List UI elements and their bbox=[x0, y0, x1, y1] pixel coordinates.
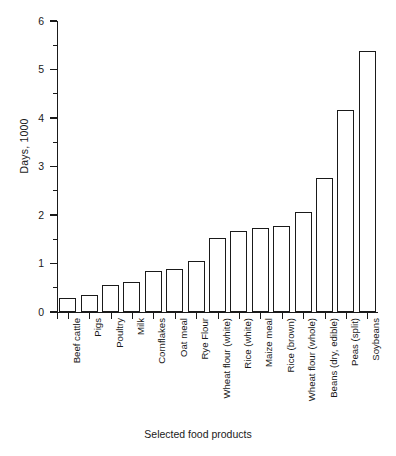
x-tick-label-wrapper: Poultry bbox=[115, 318, 125, 348]
y-tick-label: 3 bbox=[14, 161, 44, 172]
y-tick-label: 6 bbox=[14, 16, 44, 27]
x-tick-label-wrapper: Maize meal bbox=[264, 318, 274, 367]
bar bbox=[337, 110, 354, 312]
bar bbox=[230, 231, 247, 312]
y-axis-title: Days, 1000 bbox=[18, 86, 30, 206]
x-tick-label: Rice (white) bbox=[243, 318, 253, 369]
x-axis-title: Selected food products bbox=[0, 428, 396, 440]
y-tick-label: 2 bbox=[14, 210, 44, 221]
x-tick-label-wrapper: Beans (dry, edible) bbox=[329, 318, 339, 398]
x-tick-label: Milk bbox=[136, 318, 146, 335]
bar bbox=[209, 238, 226, 312]
y-tick-minor bbox=[53, 45, 57, 46]
x-tick bbox=[68, 313, 69, 319]
x-tick-label-wrapper: Oat meal bbox=[179, 318, 189, 357]
x-tick-label-wrapper: Wheat flour (white) bbox=[222, 318, 232, 399]
bar bbox=[188, 261, 205, 312]
x-tick bbox=[346, 313, 347, 319]
bar bbox=[273, 226, 290, 312]
x-tick-label-wrapper: Pigs bbox=[93, 318, 103, 337]
x-tick bbox=[111, 313, 112, 319]
bar bbox=[102, 285, 119, 312]
x-tick bbox=[282, 313, 283, 319]
x-tick-label: Beans (dry, edible) bbox=[329, 318, 339, 398]
y-tick-major bbox=[50, 69, 57, 70]
x-tick-label: Oat meal bbox=[179, 318, 189, 357]
x-tick bbox=[57, 313, 58, 319]
x-tick bbox=[218, 313, 219, 319]
bar bbox=[359, 51, 376, 312]
x-tick-label-wrapper: Peas (split) bbox=[350, 318, 360, 366]
x-tick bbox=[367, 313, 368, 319]
x-tick bbox=[175, 313, 176, 319]
bar bbox=[316, 178, 333, 312]
y-tick-label: 4 bbox=[14, 113, 44, 124]
y-tick-major bbox=[50, 214, 57, 215]
x-tick-label: Poultry bbox=[115, 318, 125, 348]
x-tick-label-wrapper: Rye Flour bbox=[200, 318, 210, 360]
y-tick-label: 5 bbox=[14, 64, 44, 75]
x-tick-label: Beef cattle bbox=[72, 318, 82, 363]
y-tick-minor bbox=[53, 93, 57, 94]
x-tick bbox=[239, 313, 240, 319]
x-tick bbox=[260, 313, 261, 319]
x-tick-label: Maize meal bbox=[264, 318, 274, 367]
x-tick-label: Soybeans bbox=[371, 318, 381, 361]
y-tick-minor bbox=[53, 190, 57, 191]
x-tick-label-wrapper: Rice (white) bbox=[243, 318, 253, 369]
x-tick bbox=[132, 313, 133, 319]
bar bbox=[59, 298, 76, 312]
bar bbox=[252, 228, 269, 312]
x-tick-label-wrapper: Beef cattle bbox=[72, 318, 82, 363]
y-tick-major bbox=[50, 20, 57, 21]
x-tick bbox=[325, 313, 326, 319]
x-tick-label: Wheat flour (white) bbox=[222, 318, 232, 399]
bar bbox=[295, 212, 312, 312]
y-tick-major bbox=[50, 311, 57, 312]
x-tick bbox=[303, 313, 304, 319]
bar bbox=[145, 271, 162, 312]
bar bbox=[166, 269, 183, 312]
x-tick-label: Rice (brown) bbox=[286, 318, 296, 372]
y-tick-major bbox=[50, 166, 57, 167]
bar bbox=[81, 295, 98, 312]
y-tick-label: 0 bbox=[14, 307, 44, 318]
y-tick-major bbox=[50, 117, 57, 118]
x-tick-label-wrapper: Rice (brown) bbox=[286, 318, 296, 372]
y-tick-minor bbox=[53, 239, 57, 240]
y-axis-line bbox=[57, 21, 58, 313]
x-tick bbox=[196, 313, 197, 319]
y-tick-minor bbox=[53, 287, 57, 288]
y-tick-label: 1 bbox=[14, 258, 44, 269]
x-tick-label: Cornflakes bbox=[157, 318, 167, 364]
x-tick-label-wrapper: Wheat flour (whole) bbox=[307, 318, 317, 401]
x-tick-label: Wheat flour (whole) bbox=[307, 318, 317, 401]
y-tick-minor bbox=[53, 142, 57, 143]
y-tick-major bbox=[50, 263, 57, 264]
x-tick-label-wrapper: Cornflakes bbox=[157, 318, 167, 364]
x-tick-label: Rye Flour bbox=[200, 318, 210, 360]
x-tick-label-wrapper: Milk bbox=[136, 318, 146, 335]
x-tick-label: Peas (split) bbox=[350, 318, 360, 366]
x-tick bbox=[153, 313, 154, 319]
x-tick bbox=[89, 313, 90, 319]
bar-chart-figure: Days, 1000 0123456 Beef cattlePigsPoultr… bbox=[0, 0, 396, 456]
x-tick-label-wrapper: Soybeans bbox=[371, 318, 381, 361]
bar bbox=[123, 282, 140, 312]
x-tick-label: Pigs bbox=[93, 318, 103, 337]
